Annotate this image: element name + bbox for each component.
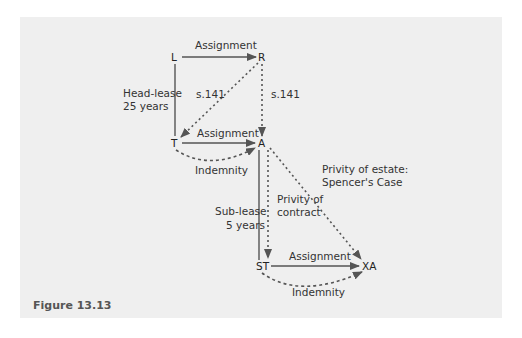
label-indemnity-ST-XA: Indemnity — [292, 286, 345, 299]
node-ST: ST — [256, 260, 269, 272]
edge-T-A-indemnity — [176, 148, 255, 161]
label-privity-contract-line2: contract — [277, 206, 321, 219]
node-L: L — [171, 51, 177, 63]
node-A: A — [258, 137, 265, 149]
label-privity-estate-line2: Spencer's Case — [322, 176, 402, 189]
label-headlease-line1: Head-lease — [123, 87, 182, 100]
figure-caption: Figure 13.13 — [33, 299, 112, 312]
label-indemnity-T-A: Indemnity — [195, 164, 248, 177]
label-assignment-ST-XA: Assignment — [289, 250, 351, 263]
edge-ST-XA-indemnity — [262, 272, 362, 286]
node-T: T — [171, 137, 177, 149]
label-privity-estate-line1: Privity of estate: — [322, 163, 408, 176]
label-sublease-line2: 5 years — [226, 219, 265, 232]
label-assignment-T-A: Assignment — [197, 127, 259, 140]
label-privity-contract-line1: Privity of — [277, 193, 323, 206]
label-headlease-line2: 25 years — [123, 100, 169, 113]
label-s141-right: s.141 — [271, 88, 300, 101]
label-sublease-line1: Sub-lease — [215, 205, 267, 218]
label-s141-left: s.141 — [196, 88, 225, 101]
node-XA: XA — [362, 260, 376, 272]
label-assignment-L-R: Assignment — [195, 39, 257, 52]
node-R: R — [258, 51, 265, 63]
